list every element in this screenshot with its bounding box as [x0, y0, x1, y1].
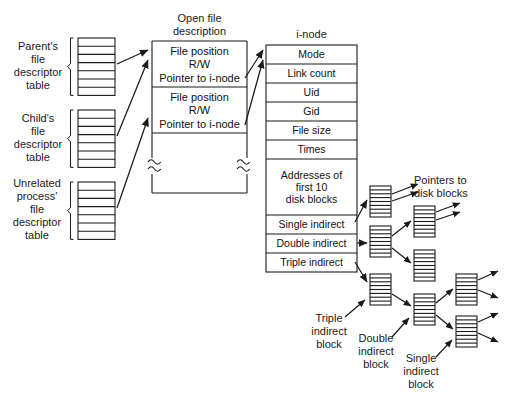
- child-fd-table-label: Child'sfiledescriptortable: [8, 112, 68, 164]
- arrow-unrelated-to-ofd2: [117, 118, 148, 208]
- ofd1-line1: File position: [152, 45, 247, 58]
- disk-block-stack-triple-l2: [414, 294, 435, 325]
- inode-field-file-size: File size: [266, 121, 357, 140]
- inode-field-addresses: Addresses offirst 10disk blocks: [266, 159, 357, 215]
- disk-block-stack-double-l2-lower: [414, 250, 435, 281]
- pointers-to-disk-blocks-label: Pointers todisk blocks: [414, 174, 502, 200]
- arrow-blockC-out-1: [436, 203, 460, 212]
- arrow-blockH-out-2: [478, 333, 498, 342]
- arrow-blockH-out-1: [478, 313, 498, 322]
- disk-block-stack-triple-l1: [370, 274, 391, 305]
- unrelated-fd-table-label: Unrelatedprocess'filedescriptortable: [4, 177, 70, 242]
- arrow-blockB-to-C: [392, 221, 411, 236]
- ofd2-line2: R/W: [152, 104, 247, 117]
- inode-field-times: Times: [266, 140, 357, 159]
- open-file-entry-1: File position R/W Pointer to i-node: [152, 45, 247, 85]
- triple-indirect-block-label: Tripleindirectblock: [303, 312, 355, 351]
- arrow-blockF-to-H: [436, 315, 453, 329]
- arrow-ofd2-to-inode: [245, 60, 263, 125]
- inode-field-double-indirect: Double indirect: [266, 234, 357, 253]
- arrow-blockC-out-2: [436, 212, 460, 220]
- diagram-vector-layer: [0, 0, 505, 412]
- parent-fd-table-label: Parent'sfiledescriptortable: [8, 40, 68, 92]
- unrelated-fd-table: [68, 182, 115, 239]
- inode-field-triple-indirect: Triple indirect: [266, 253, 357, 272]
- arrow-blockE-to-F: [392, 294, 411, 306]
- disk-block-stack-triple-l3-lower: [456, 316, 477, 347]
- arrow-blockF-to-G: [436, 289, 453, 303]
- inode-field-mode: Mode: [266, 45, 357, 64]
- ofd1-line3: Pointer to i-node: [152, 72, 247, 85]
- disk-block-stack-double-l2-upper: [414, 206, 435, 237]
- disk-block-stack-double-l1: [370, 226, 391, 257]
- ofd2-line1: File position: [152, 91, 247, 104]
- inode-field-single-indirect: Single indirect: [266, 215, 357, 234]
- inode-field-gid: Gid: [266, 102, 357, 121]
- open-file-entry-2: File position R/W Pointer to i-node: [152, 91, 247, 131]
- ofd2-line3: Pointer to i-node: [152, 118, 247, 131]
- arrow-blockG-out-2: [478, 290, 498, 298]
- inode-field-uid: Uid: [266, 83, 357, 102]
- arrow-blockG-out-1: [478, 271, 498, 280]
- disk-block-stack-triple-l3-upper: [456, 274, 477, 305]
- arrow-parent-to-ofd1: [117, 50, 148, 64]
- arrow-ofd1-to-inode: [245, 50, 263, 78]
- single-indirect-block-label: Singleindirectblock: [395, 352, 447, 391]
- parent-fd-table: [68, 38, 115, 95]
- arrow-child-to-ofd1: [117, 60, 148, 136]
- diagram-canvas: Open filedescription i-node Parent'sfile…: [0, 0, 505, 412]
- child-fd-table: [68, 110, 115, 167]
- disk-block-stack-single: [370, 186, 391, 217]
- ofd1-line2: R/W: [152, 58, 247, 71]
- open-file-description-title: Open filedescription: [152, 12, 247, 38]
- inode-field-link-count: Link count: [266, 64, 357, 83]
- arrow-blockB-to-D: [392, 248, 411, 263]
- inode-title: i-node: [266, 28, 357, 41]
